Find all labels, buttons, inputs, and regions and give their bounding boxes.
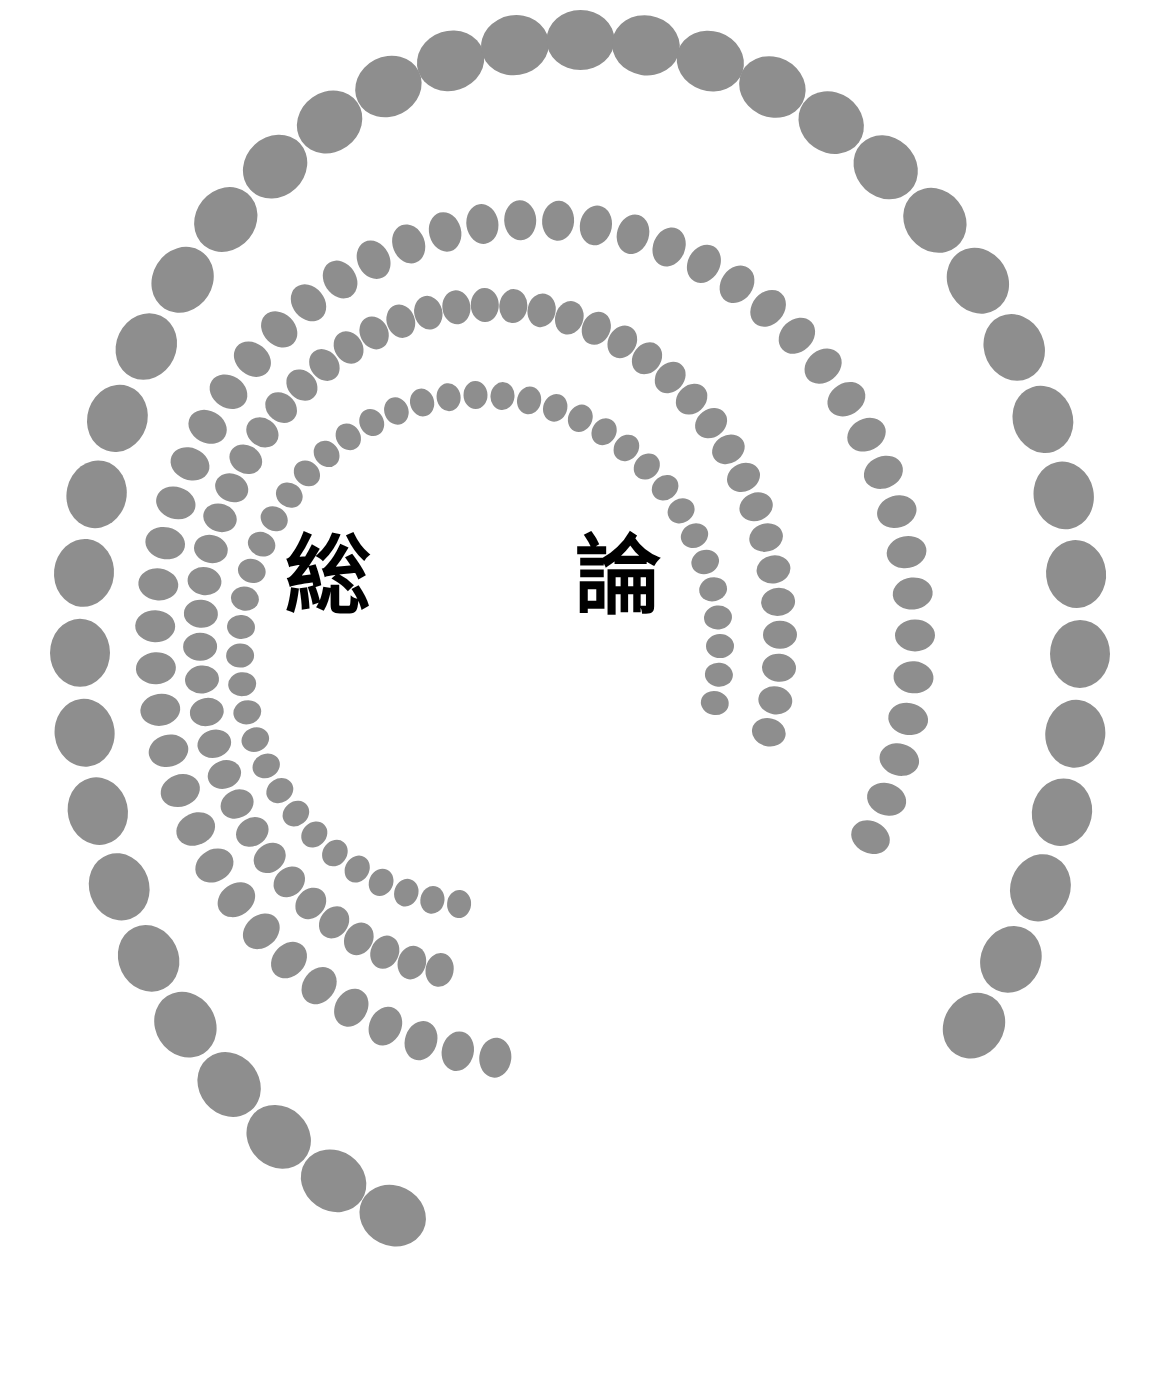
dot — [608, 10, 685, 80]
dot — [422, 950, 456, 989]
dot — [399, 1017, 442, 1065]
inner-arc — [226, 381, 734, 919]
dot — [137, 566, 181, 603]
dot — [107, 915, 191, 1002]
dot — [477, 1036, 513, 1079]
dot — [884, 533, 929, 572]
dot — [51, 536, 118, 610]
dot — [859, 450, 908, 494]
dot — [756, 684, 794, 717]
dot — [78, 377, 157, 461]
dot — [862, 777, 911, 821]
title-char-1: 総 — [285, 528, 371, 624]
dot — [390, 876, 422, 910]
dot — [435, 382, 463, 413]
dot — [895, 619, 935, 651]
dot — [407, 386, 437, 419]
dot — [677, 519, 713, 553]
dot — [138, 691, 182, 729]
dot — [514, 384, 543, 417]
dot — [226, 643, 254, 668]
dot — [80, 845, 159, 929]
dot — [464, 202, 502, 246]
dot — [362, 1001, 408, 1051]
dot — [184, 664, 221, 695]
dot — [135, 651, 177, 685]
dot — [612, 210, 654, 257]
outer-arc — [50, 10, 1110, 1258]
dot — [697, 574, 730, 604]
dot — [876, 739, 923, 780]
dot — [489, 381, 516, 411]
dot — [1050, 620, 1110, 688]
dot — [248, 749, 284, 783]
dot — [706, 634, 734, 658]
dot — [763, 620, 797, 648]
arc-3 — [183, 288, 797, 990]
dot — [235, 555, 269, 586]
arc-2 — [135, 200, 935, 1080]
dotted-spiral-decoration — [0, 0, 1168, 1391]
dot — [704, 661, 734, 687]
dot — [231, 697, 264, 727]
dot — [105, 303, 188, 390]
dot — [350, 235, 397, 285]
dot — [226, 614, 256, 640]
dot — [1042, 697, 1109, 771]
dot — [387, 219, 431, 268]
dot — [1027, 456, 1100, 535]
dot — [145, 730, 192, 771]
dot — [199, 499, 240, 536]
dot — [930, 981, 1017, 1071]
dot — [238, 724, 272, 756]
dot — [411, 293, 446, 333]
dot — [688, 546, 722, 578]
dot — [418, 884, 447, 916]
dot — [50, 619, 110, 687]
dot — [892, 660, 934, 695]
dot — [647, 222, 692, 271]
dot — [171, 806, 221, 852]
dot — [183, 599, 219, 629]
dot — [463, 381, 488, 409]
dot — [577, 203, 616, 248]
dot — [165, 441, 214, 486]
dot — [229, 584, 261, 613]
dot — [821, 375, 872, 423]
dot — [438, 1028, 478, 1074]
dot — [524, 291, 558, 330]
dot — [539, 391, 571, 425]
dot — [477, 10, 554, 80]
dot — [60, 455, 133, 534]
dot — [973, 304, 1056, 391]
dot — [749, 715, 789, 750]
dot — [424, 208, 465, 255]
dot — [61, 771, 134, 851]
dot — [182, 403, 232, 450]
dot — [1025, 772, 1098, 852]
dot — [1004, 378, 1082, 462]
section-title-page: 総 論 — [0, 0, 1168, 1391]
dot — [969, 916, 1053, 1003]
dot — [746, 520, 786, 556]
dot — [699, 688, 731, 717]
dot — [142, 523, 188, 563]
dot — [152, 482, 200, 524]
dot — [754, 553, 793, 587]
dot — [51, 696, 118, 770]
dot — [541, 200, 576, 242]
dot — [873, 491, 920, 533]
title-char-2: 論 — [575, 528, 661, 624]
dot — [187, 695, 226, 729]
dot — [244, 528, 279, 561]
dot — [409, 22, 492, 100]
dot — [446, 889, 472, 919]
dot — [183, 632, 217, 661]
dot — [204, 755, 246, 793]
dot — [470, 288, 499, 323]
dot — [761, 653, 797, 683]
dot — [191, 531, 231, 566]
dot — [135, 610, 176, 643]
dot — [227, 671, 258, 698]
dot — [503, 200, 537, 241]
